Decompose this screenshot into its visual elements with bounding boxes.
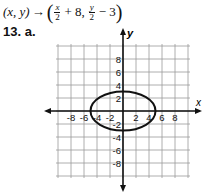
- y-tick-label: 8: [116, 54, 121, 65]
- y-axis-arrow-down-icon: [120, 185, 126, 192]
- y-tick-label: -6: [113, 145, 121, 156]
- x-tick-label: -8: [67, 112, 75, 123]
- coordinate-plane: xy-8-6-4-224688642-2-4-6-8: [0, 0, 213, 194]
- x-tick-label: 6: [159, 112, 164, 123]
- y-tick-label: -8: [113, 158, 121, 169]
- x-tick-label: 8: [172, 112, 177, 123]
- x-axis-arrow-left-icon: [44, 108, 51, 114]
- y-axis-label: y: [126, 27, 134, 39]
- y-tick-label: 2: [116, 93, 121, 104]
- x-axis-label: x: [195, 97, 202, 108]
- x-axis-arrow-right-icon: [195, 108, 202, 114]
- y-tick-label: 4: [116, 80, 121, 91]
- x-tick-label: -6: [80, 112, 88, 123]
- x-tick-label: 2: [133, 112, 138, 123]
- y-tick-label: -2: [113, 119, 121, 130]
- y-tick-label: -4: [113, 132, 121, 143]
- y-axis-arrow-up-icon: [120, 28, 126, 35]
- y-tick-label: 6: [116, 67, 121, 78]
